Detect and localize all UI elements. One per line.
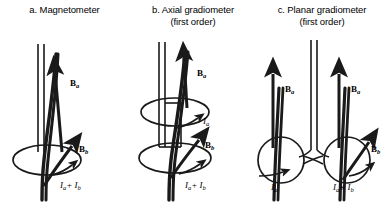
panel-c-field-label-left: Ba	[285, 84, 295, 95]
panel-a-drawing: Ba Bb Ia+ Ib	[0, 0, 129, 209]
panel-b-field-label-lower: Bb	[205, 140, 215, 151]
panel-a-field-label-upper: Ba	[70, 78, 80, 89]
panel-a-field-label-lower: Bb	[79, 144, 89, 155]
panel-b-current-label-upper: Ia	[202, 116, 209, 127]
panel-c-crossover	[303, 156, 323, 164]
panel-a-field-arrow-upper	[55, 72, 62, 152]
panel-c-current-label-right: Ia+ Ib	[332, 182, 355, 193]
panel-c-current-label-left: Ia	[270, 182, 277, 193]
panel-c-drawing: Ba Ba Bb Ia Ia+ Ib	[257, 0, 387, 209]
panel-b-current-label-lower: Ia+ Ib	[184, 180, 207, 191]
panel-b-drawing: Ba Ia Bb Ia+ Ib	[129, 0, 257, 209]
panel-c-field-label-lower: Bb	[371, 144, 381, 155]
panel-planar-gradiometer: c. Planar gradiometer (first order)	[257, 0, 387, 209]
panel-a-current-label: Ia+ Ib	[59, 180, 82, 191]
panel-magnetometer: a. Magnetometer	[0, 0, 129, 209]
panel-axial-gradiometer: b. Axial gradiometer (first order)	[129, 0, 257, 209]
panel-c-support-tube	[299, 40, 329, 157]
panel-c-field-label-right: Ba	[351, 84, 361, 95]
panel-a-support-tube	[38, 44, 44, 152]
figure-canvas: a. Magnetometer	[0, 0, 387, 209]
panel-b-field-label-upper: Ba	[197, 68, 207, 79]
